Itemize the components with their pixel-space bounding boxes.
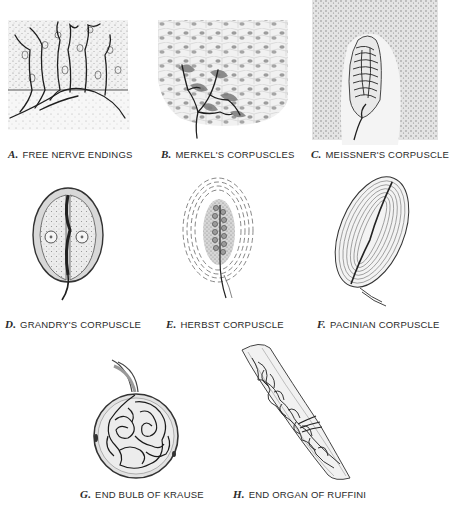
panel-a-free-nerve-endings [0,0,150,145]
panel-label: END ORGAN OF RUFFINI [249,489,366,500]
end-bulb-of-krause-illustration [80,340,230,485]
caption-c: C.MEISSNER'S CORPUSCLE [311,148,449,160]
panel-e-herbst-corpuscle [150,170,300,315]
herbst-corpuscle-illustration [150,170,300,315]
pacinian-corpuscle-illustration [300,170,442,315]
panel-c-meissners-corpuscle [300,0,442,145]
panel-letter: F. [317,318,326,330]
grandrys-corpuscle-illustration [0,170,150,315]
panel-label: FREE NERVE ENDINGS [23,149,133,160]
caption-g: G.END BULB OF KRAUSE [80,488,204,500]
panel-h-end-organ-of-ruffini [230,330,380,485]
panel-label: GRANDRY'S CORPUSCLE [20,319,141,330]
panel-label: HERBST CORPUSCLE [181,319,284,330]
meissners-corpuscle-illustration [300,0,442,145]
panel-b-merkels-corpuscles [150,0,300,145]
caption-h: H.END ORGAN OF RUFFINI [233,488,366,500]
free-nerve-endings-illustration [0,0,150,145]
panel-label: END BULB OF KRAUSE [95,489,204,500]
panel-d-grandrys-corpuscle [0,170,150,315]
panel-label: PACINIAN CORPUSCLE [330,319,440,330]
panel-letter: D. [5,318,16,330]
caption-a: A.FREE NERVE ENDINGS [8,148,133,160]
caption-f: F.PACINIAN CORPUSCLE [317,318,440,330]
panel-letter: G. [80,488,91,500]
panel-letter: H. [233,488,245,500]
panel-letter: E. [166,318,177,330]
caption-d: D.GRANDRY'S CORPUSCLE [5,318,141,330]
panel-letter: C. [311,148,322,160]
caption-e: E.HERBST CORPUSCLE [166,318,284,330]
panel-g-end-bulb-of-krause [80,340,230,485]
panel-f-pacinian-corpuscle [300,170,442,315]
panel-label: MERKEL'S CORPUSCLES [176,149,295,160]
merkels-corpuscles-illustration [150,0,300,145]
caption-b: B.MERKEL'S CORPUSCLES [161,148,295,160]
panel-letter: A. [8,148,19,160]
panel-label: MEISSNER'S CORPUSCLE [326,149,449,160]
end-organ-of-ruffini-illustration [230,330,380,485]
panel-letter: B. [161,148,172,160]
